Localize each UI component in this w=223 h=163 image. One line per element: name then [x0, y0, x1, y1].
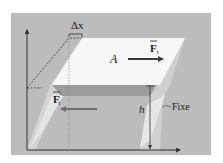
front-band: [52, 85, 160, 96]
fixed-label: Fixe: [172, 101, 190, 112]
force-bottom-label: F′t: [53, 92, 62, 107]
delta-x-label: Δx: [71, 19, 84, 31]
height-label: h: [139, 103, 145, 115]
area-label: A: [109, 52, 118, 66]
shear-diagram: Δx A Ft F′t h Fixe: [0, 0, 223, 163]
